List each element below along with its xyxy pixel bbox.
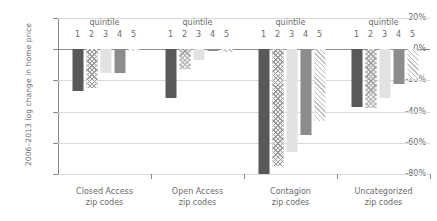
bar[interactable]: [351, 49, 362, 107]
quintile-number-label: 4: [206, 30, 220, 39]
bar-slot: 2: [178, 18, 192, 174]
bar-slot: 3: [99, 18, 113, 174]
bar-slot: 1: [164, 18, 178, 174]
bar-group: quintile12345: [337, 18, 430, 174]
bar-slot: 5: [127, 18, 141, 174]
x-axis-separator-tick: [244, 174, 245, 179]
group-bars: 12345: [58, 18, 151, 174]
quintile-number-label: 2: [178, 30, 192, 39]
x-axis-separator-tick: [337, 174, 338, 179]
quintile-number-label: 1: [71, 30, 85, 39]
bar[interactable]: [314, 49, 325, 121]
quintile-number-label: 1: [257, 30, 271, 39]
bar[interactable]: [393, 49, 404, 83]
bar-slot: 1: [71, 18, 85, 174]
quintile-number-label: 5: [406, 30, 420, 39]
quintile-number-label: 4: [392, 30, 406, 39]
bar-slot: 2: [85, 18, 99, 174]
quintile-number-label: 2: [85, 30, 99, 39]
bar[interactable]: [379, 49, 390, 97]
bar[interactable]: [114, 49, 125, 72]
bar[interactable]: [86, 49, 97, 88]
bar-chart: 2006–2013 log change in home price 20%0%…: [0, 0, 437, 221]
bar-slot: 5: [220, 18, 234, 174]
bar[interactable]: [179, 49, 190, 69]
x-group-label-line2: zip codes: [151, 197, 244, 208]
bar-slot: 3: [285, 18, 299, 174]
quintile-number-label: 4: [113, 30, 127, 39]
x-group-label: Closed Accesszip codes: [58, 186, 151, 208]
quintile-number-label: 5: [127, 30, 141, 39]
bar[interactable]: [286, 49, 297, 152]
x-group-label-line1: Closed Access: [76, 187, 133, 196]
bar-slot: 4: [206, 18, 220, 174]
quintile-number-label: 5: [313, 30, 327, 39]
bar[interactable]: [300, 49, 311, 135]
group-bars: 12345: [337, 18, 430, 174]
bar[interactable]: [407, 49, 418, 79]
quintile-number-label: 2: [271, 30, 285, 39]
x-group-label-line2: zip codes: [58, 197, 151, 208]
group-bars: 12345: [244, 18, 337, 174]
bar-group: quintile12345: [151, 18, 244, 174]
bar[interactable]: [165, 49, 176, 97]
bar-slot: 1: [257, 18, 271, 174]
bar[interactable]: [221, 49, 232, 52]
bar-slot: 2: [364, 18, 378, 174]
bar-group: quintile12345: [58, 18, 151, 174]
quintile-number-label: 3: [192, 30, 206, 39]
bar-slot: 5: [406, 18, 420, 174]
bar[interactable]: [193, 49, 204, 60]
bar[interactable]: [100, 49, 111, 72]
x-group-label: Uncategorizedzip codes: [337, 186, 430, 208]
bar-slot: 1: [350, 18, 364, 174]
group-bars: 12345: [151, 18, 244, 174]
quintile-number-label: 3: [378, 30, 392, 39]
bar-slot: 4: [299, 18, 313, 174]
bar-slot: 3: [378, 18, 392, 174]
x-group-label: Open Accesszip codes: [151, 186, 244, 208]
x-axis-end-tick: [430, 174, 431, 179]
bar-slot: 4: [113, 18, 127, 174]
bar-group: quintile12345: [244, 18, 337, 174]
quintile-number-label: 4: [299, 30, 313, 39]
x-group-label-line2: zip codes: [337, 197, 430, 208]
bar-slot: 5: [313, 18, 327, 174]
quintile-number-label: 2: [364, 30, 378, 39]
bar[interactable]: [272, 49, 283, 166]
quintile-number-label: 1: [350, 30, 364, 39]
bar-slot: 3: [192, 18, 206, 174]
x-group-label-line1: Contagion: [270, 187, 311, 196]
bar-slot: 4: [392, 18, 406, 174]
x-axis-separator-tick: [151, 174, 152, 179]
quintile-number-label: 3: [285, 30, 299, 39]
bar[interactable]: [207, 49, 218, 51]
quintile-number-label: 5: [220, 30, 234, 39]
x-group-label: Contagionzip codes: [244, 186, 337, 208]
quintile-number-label: 3: [99, 30, 113, 39]
plot-area: quintile12345quintile12345quintile12345q…: [58, 18, 430, 174]
x-group-label-line2: zip codes: [244, 197, 337, 208]
bar[interactable]: [258, 49, 269, 174]
bar[interactable]: [72, 49, 83, 91]
y-axis-title: 2006–2013 log change in home price: [24, 5, 33, 185]
x-group-label-line1: Open Access: [172, 187, 223, 196]
bar[interactable]: [128, 49, 139, 51]
bar[interactable]: [365, 49, 376, 108]
x-group-label-line1: Uncategorized: [355, 187, 413, 196]
quintile-number-label: 1: [164, 30, 178, 39]
bar-slot: 2: [271, 18, 285, 174]
